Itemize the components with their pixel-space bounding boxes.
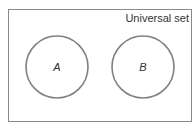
set-b-label: B (139, 61, 146, 73)
venn-diagram: Universal set A B (0, 0, 194, 128)
universal-set-label: Universal set (125, 12, 189, 24)
set-a-label: A (52, 61, 60, 73)
universal-set-rectangle (9, 10, 192, 122)
